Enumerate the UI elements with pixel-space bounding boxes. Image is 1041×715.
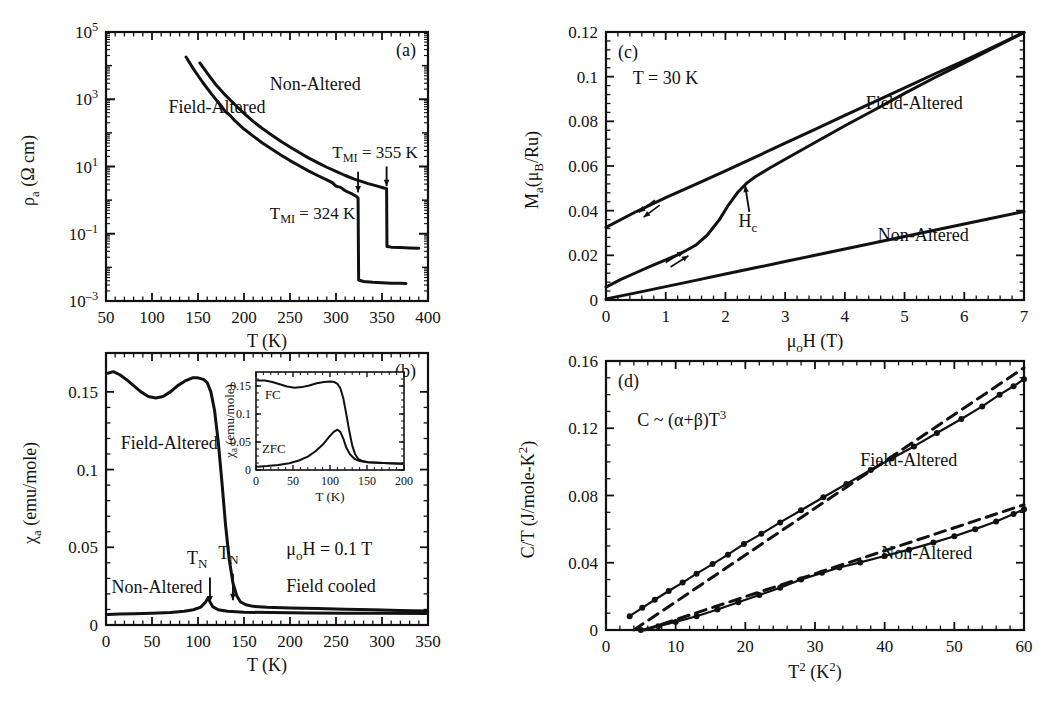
inset-x-tick-label: 50 — [287, 474, 299, 488]
y-tick-label-d: 0.12 — [568, 419, 598, 438]
x-tick-label-a: 400 — [415, 308, 441, 327]
x-tick-label-b: 50 — [144, 632, 161, 651]
y-tick-label-a: 10–1 — [69, 222, 98, 244]
panel-a-tmi-324-label: TMI = 324 K — [270, 204, 356, 226]
x-tick-label-c: 7 — [1020, 307, 1029, 326]
panel-d-formula-label: C ~ (α+β)T3 — [637, 407, 726, 431]
x-tick-label-d: 0 — [602, 637, 611, 656]
panel-a-field-altered-label: Field-Altered — [169, 97, 266, 117]
inset-x-tick-label: 150 — [358, 474, 376, 488]
x-tick-label-a: 300 — [323, 308, 349, 327]
panel-d-data-point — [997, 392, 1003, 398]
y-tick-label-d: 0.08 — [568, 487, 598, 506]
panel-b-arrow-tn-right-head — [230, 594, 236, 600]
y-tick-label-c: 0 — [590, 291, 599, 310]
panel-d-ylabel: C/T (J/mole-K2) — [515, 441, 539, 559]
x-tick-label-d: 40 — [876, 637, 893, 656]
panel-c-temperature-label: T = 30 K — [633, 68, 698, 88]
y-tick-label-c: 0.12 — [568, 23, 598, 42]
panel-d: 010203040506000.040.080.120.16T2 (K2)C/T… — [515, 352, 1033, 683]
panel-d-fit-line — [644, 505, 1024, 630]
x-tick-label-c: 4 — [841, 307, 850, 326]
panel-a-xlabel: T (K) — [247, 331, 287, 352]
inset-x-tick-label: 200 — [395, 474, 413, 488]
panel-d-data-point — [958, 416, 964, 422]
panel-b: 05010015020025030035000.050.10.15T (K)χa… — [20, 353, 441, 676]
panel-d-data-point — [725, 552, 731, 558]
figure-root: 5010015020025030035040010510310110–110–3… — [0, 0, 1041, 715]
inset-y-tick-label: 0 — [245, 463, 251, 477]
y-tick-label-c: 0.04 — [568, 202, 598, 221]
y-tick-label-c: 0.02 — [568, 246, 598, 265]
panel-d-data-point — [694, 571, 700, 577]
panel-c-non-altered-label: Non-Altered — [878, 225, 969, 245]
y-tick-label-a: 10–3 — [69, 289, 98, 311]
panel-d-label: (d) — [618, 371, 639, 392]
x-tick-label-a: 150 — [185, 308, 211, 327]
panel-b-non-altered-label: Non-Altered — [112, 577, 203, 597]
panel-b-xlabel: T (K) — [247, 655, 287, 676]
x-tick-label-b: 0 — [102, 632, 111, 651]
panel-c-field-altered-label: Field-Altered — [866, 93, 963, 113]
y-tick-label-b: 0.1 — [77, 461, 98, 480]
panel-a-non-altered-label: Non-Altered — [270, 74, 361, 94]
y-tick-label-d: 0.16 — [568, 352, 598, 371]
panel-d-data-point — [1021, 506, 1027, 512]
x-tick-label-c: 1 — [661, 307, 670, 326]
y-tick-label-b: 0 — [90, 616, 99, 635]
panel-d-data-point — [1021, 376, 1027, 382]
inset-x-tick-label: 0 — [253, 474, 259, 488]
panel-d-field-altered-label: Field-Altered — [860, 450, 957, 470]
panel-c-xlabel: μoH (T) — [787, 331, 844, 355]
panel-d-data-point — [993, 519, 999, 525]
inset-zfc-label: ZFC — [262, 441, 286, 456]
panel-d-data-point — [758, 531, 764, 537]
x-tick-label-b: 100 — [185, 632, 211, 651]
panel-d-data-point — [951, 533, 957, 539]
panel-d-data-point — [820, 494, 826, 500]
inset-ylabel: χa (emu/mole) — [222, 384, 239, 459]
x-tick-label-c: 5 — [900, 307, 909, 326]
panel-d-data-point — [666, 588, 672, 594]
panel-b-ylabel: χa (emu/mole) — [20, 442, 44, 545]
panel-d-data-point — [777, 519, 783, 525]
x-tick-label-c: 2 — [721, 307, 730, 326]
figure-canvas: 5010015020025030035040010510310110–110–3… — [0, 0, 1041, 715]
panel-d-xlabel: T2 (K2) — [788, 659, 841, 683]
panel-a-frame — [106, 32, 428, 301]
x-tick-label-a: 50 — [98, 308, 115, 327]
panel-c-ylabel: Ma(μB/Ru) — [522, 131, 546, 209]
x-tick-label-d: 50 — [946, 637, 963, 656]
panel-d-data-point — [741, 541, 747, 547]
y-tick-label-c: 0.06 — [568, 157, 598, 176]
y-tick-label-a: 101 — [75, 155, 98, 177]
x-tick-label-a: 250 — [277, 308, 303, 327]
x-tick-label-a: 200 — [231, 308, 257, 327]
panel-a-arrow-tmi-324-head — [355, 186, 361, 192]
y-tick-label-c: 0.08 — [568, 112, 598, 131]
panel-d-data-point — [680, 580, 686, 586]
panel-d-data-point — [979, 403, 985, 409]
inset-x-tick-label: 100 — [321, 474, 339, 488]
x-tick-label-d: 10 — [667, 637, 684, 656]
panel-d-data-point — [798, 507, 804, 513]
panel-b-field-cooled-label: Field cooled — [286, 576, 375, 596]
panel-c-label: (c) — [618, 42, 638, 63]
y-tick-label-c: 0.1 — [577, 68, 598, 87]
x-tick-label-d: 60 — [1016, 637, 1033, 656]
x-tick-label-c: 3 — [781, 307, 790, 326]
panel-d-data-point — [972, 526, 978, 532]
inset-y-tick-label: 0.1 — [236, 407, 251, 421]
panel-a: 5010015020025030035040010510310110–110–3… — [18, 20, 441, 352]
y-tick-label-b: 0.05 — [68, 538, 98, 557]
inset-fc-label: FC — [265, 387, 281, 402]
x-tick-label-c: 6 — [960, 307, 969, 326]
panel-b-inset: 05010015020000.050.10.15FCZFCT (K)χa (em… — [222, 372, 413, 504]
panel-d-fit-line — [634, 368, 1024, 630]
y-tick-label-d: 0 — [590, 621, 599, 640]
y-tick-label-b: 0.15 — [68, 383, 98, 402]
panel-c: 0123456700.020.040.060.080.10.12μoH (T)M… — [522, 23, 1029, 355]
panel-d-data-point — [1011, 511, 1017, 517]
x-tick-label-b: 300 — [369, 632, 395, 651]
panel-b-field-altered-label: Field-Altered — [121, 433, 218, 453]
